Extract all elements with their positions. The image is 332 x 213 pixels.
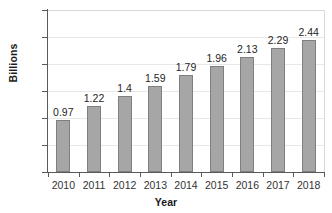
gridline bbox=[48, 10, 324, 11]
bar-value-label: 0.97 bbox=[41, 107, 85, 118]
bar bbox=[271, 48, 285, 172]
y-tick-mark bbox=[42, 10, 47, 11]
x-tick-mark bbox=[324, 173, 325, 177]
x-tick-mark bbox=[293, 173, 294, 177]
x-axis-title: Year bbox=[0, 196, 332, 208]
bar-chart: Billions 00.511.522.53 20102011201220132… bbox=[0, 0, 332, 213]
bar bbox=[210, 66, 224, 172]
y-axis-title: Billions bbox=[7, 23, 19, 103]
y-tick-mark bbox=[42, 64, 47, 65]
bar-value-label: 2.44 bbox=[287, 27, 331, 38]
x-tick-mark bbox=[201, 173, 202, 177]
x-tick-mark bbox=[140, 173, 141, 177]
bar bbox=[118, 96, 132, 172]
bar-value-label: 1.22 bbox=[72, 93, 116, 104]
bar bbox=[87, 106, 101, 172]
bar-value-label: 1.79 bbox=[164, 62, 208, 73]
x-axis-line bbox=[47, 172, 325, 173]
x-tick-mark bbox=[232, 173, 233, 177]
bar bbox=[240, 57, 254, 172]
y-tick-mark bbox=[42, 118, 47, 119]
x-tick-mark bbox=[109, 173, 110, 177]
bar bbox=[56, 120, 70, 172]
bar bbox=[179, 75, 193, 172]
y-tick-mark bbox=[42, 145, 47, 146]
x-tick-mark bbox=[79, 173, 80, 177]
bar-value-label: 1.96 bbox=[195, 53, 239, 64]
y-tick-mark bbox=[42, 172, 47, 173]
bar bbox=[148, 86, 162, 172]
x-tick-label: 2018 bbox=[289, 178, 329, 193]
x-tick-mark bbox=[263, 173, 264, 177]
x-tick-mark bbox=[171, 173, 172, 177]
x-tick-mark bbox=[48, 173, 49, 177]
bar bbox=[302, 40, 316, 172]
bar-value-label: 1.4 bbox=[103, 83, 147, 94]
y-tick-mark bbox=[42, 91, 47, 92]
y-tick-mark bbox=[42, 37, 47, 38]
bar-value-label: 1.59 bbox=[133, 73, 177, 84]
